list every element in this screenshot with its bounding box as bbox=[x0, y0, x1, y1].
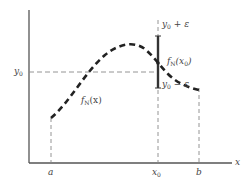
tick-x0-sub: 0 bbox=[157, 171, 161, 178]
x-axis-label: x bbox=[235, 158, 240, 167]
upper-bound-suffix: + ε bbox=[171, 19, 189, 29]
tick-label-y0: y0 bbox=[14, 67, 23, 77]
point-label: fN(x0) bbox=[167, 57, 192, 67]
curve-label-arg: (x) bbox=[90, 95, 102, 105]
tick-label-b: b bbox=[196, 168, 202, 177]
tick-b-text: b bbox=[196, 167, 202, 177]
diagram-canvas bbox=[0, 0, 248, 183]
point-label-arg-pre: (x bbox=[176, 56, 185, 66]
curve-label: fN(x) bbox=[81, 96, 102, 106]
lower-bound-suffix: − ε bbox=[171, 79, 189, 89]
x-axis-label-text: x bbox=[235, 157, 240, 167]
point-marker bbox=[156, 61, 160, 65]
lower-bound-label: y0 − ε bbox=[162, 80, 189, 90]
tick-label-a: a bbox=[48, 168, 53, 177]
tick-y0-sub: 0 bbox=[19, 70, 23, 77]
tick-label-x0: x0 bbox=[152, 168, 161, 178]
tick-a-text: a bbox=[48, 167, 53, 177]
point-label-arg-post: ) bbox=[188, 56, 192, 66]
upper-bound-label: y0 + ε bbox=[162, 20, 189, 30]
